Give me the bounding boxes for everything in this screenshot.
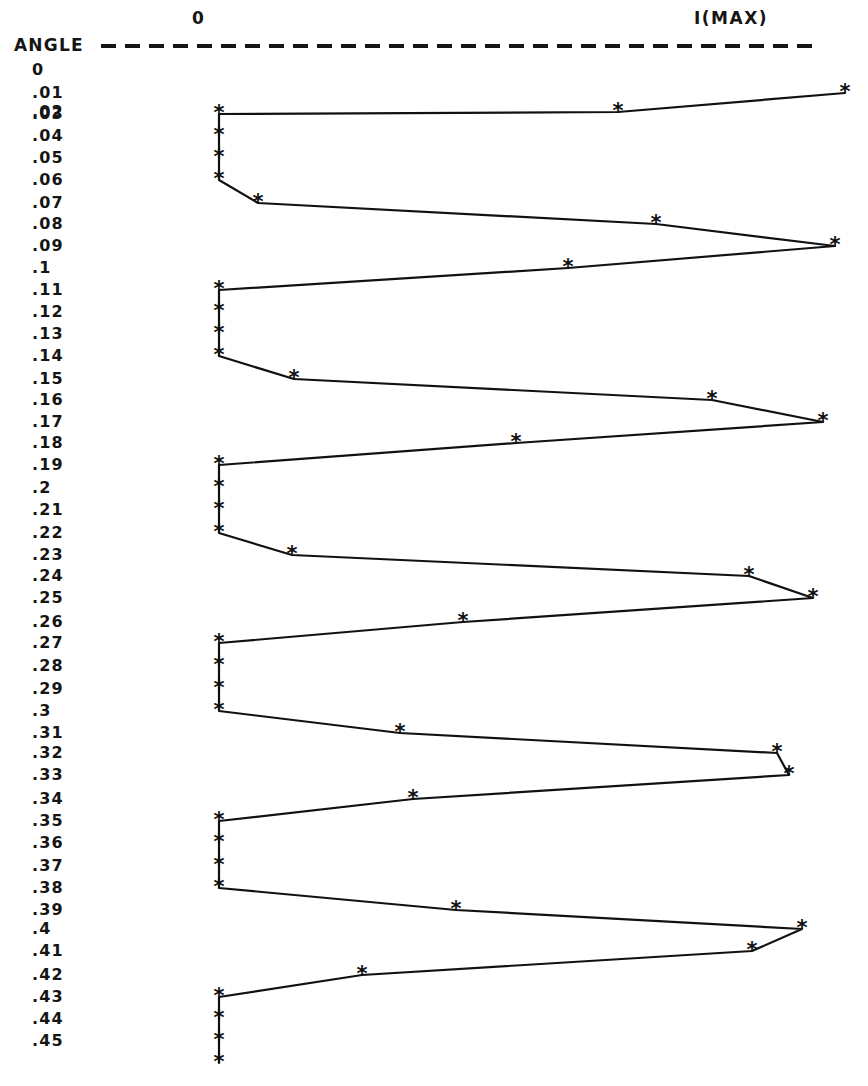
- dash-segment: [605, 44, 620, 48]
- column-header-zero: 0: [192, 8, 205, 28]
- dash-segment: [461, 44, 476, 48]
- dash-segment: [101, 44, 116, 48]
- data-point-marker: *: [747, 940, 758, 961]
- axis-tick-label: .08: [14, 216, 134, 232]
- data-point-marker: *: [214, 1030, 225, 1051]
- data-point-marker: *: [744, 565, 755, 586]
- data-point-marker: *: [830, 235, 841, 256]
- dash-segment: [533, 44, 548, 48]
- axis-tick-label: .42: [14, 967, 134, 983]
- axis-tick-label: .43: [14, 989, 134, 1005]
- data-point-marker: *: [214, 877, 225, 898]
- data-point-marker: *: [214, 1052, 225, 1073]
- dash-segment: [389, 44, 404, 48]
- data-point-marker: *: [408, 788, 419, 809]
- column-header-imax: I(MAX): [694, 8, 768, 28]
- axis-tick-label: .37: [14, 858, 134, 874]
- data-point-marker: *: [613, 101, 624, 122]
- data-point-marker: *: [214, 301, 225, 322]
- data-point-marker: *: [214, 279, 225, 300]
- dashed-rule: [101, 44, 813, 48]
- axis-tick-label: .29: [14, 681, 134, 697]
- axis-tick-label: .16: [14, 392, 134, 408]
- axis-tick-label: .4: [14, 921, 134, 937]
- axis-tick-label: .12: [14, 304, 134, 320]
- dash-segment: [725, 44, 740, 48]
- data-point-marker: *: [395, 722, 406, 743]
- axis-tick-label: 0: [14, 62, 134, 78]
- data-point-marker: *: [214, 522, 225, 543]
- data-point-marker: *: [214, 125, 225, 146]
- data-point-marker: *: [214, 147, 225, 168]
- data-point-marker: *: [287, 544, 298, 565]
- dash-segment: [293, 44, 308, 48]
- axis-tick-label: .25: [14, 590, 134, 606]
- axis-tick-label: .01: [14, 85, 134, 101]
- data-point-marker: *: [214, 169, 225, 190]
- plot-page: 0 I(MAX) ANGLE 0.01.02.03.04.05.06.07.08…: [0, 0, 868, 1086]
- axis-tick-label: .36: [14, 835, 134, 851]
- data-point-marker: *: [451, 899, 462, 920]
- data-point-marker: *: [214, 986, 225, 1007]
- axis-tick-label: .24: [14, 568, 134, 584]
- data-point-marker: *: [289, 368, 300, 389]
- data-point-marker: *: [511, 432, 522, 453]
- dash-segment: [149, 44, 164, 48]
- data-point-marker: *: [214, 454, 225, 475]
- data-point-marker: *: [707, 389, 718, 410]
- axis-tick-label: .23: [14, 547, 134, 563]
- axis-tick-label: .11: [14, 282, 134, 298]
- dash-segment: [749, 44, 764, 48]
- dash-segment: [125, 44, 140, 48]
- dash-segment: [269, 44, 284, 48]
- axis-tick-label: .3: [14, 703, 134, 719]
- dash-segment: [581, 44, 596, 48]
- data-point-marker: *: [214, 499, 225, 520]
- data-point-marker: *: [784, 764, 795, 785]
- axis-tick-label: .19: [14, 457, 134, 473]
- axis-tick-label: .45: [14, 1033, 134, 1049]
- dash-segment: [485, 44, 500, 48]
- data-point-marker: *: [214, 810, 225, 831]
- data-point-marker: *: [818, 411, 829, 432]
- axis-tick-label: .33: [14, 767, 134, 783]
- dash-segment: [197, 44, 212, 48]
- axis-tick-label: .28: [14, 658, 134, 674]
- dash-segment: [773, 44, 788, 48]
- data-point-marker: *: [458, 611, 469, 632]
- data-point-marker: *: [840, 82, 851, 103]
- axis-tick-label: .27: [14, 635, 134, 651]
- dash-segment: [341, 44, 356, 48]
- axis-tick-label: .07: [14, 195, 134, 211]
- dash-segment: [413, 44, 428, 48]
- data-point-marker: *: [214, 832, 225, 853]
- axis-tick-label: .35: [14, 813, 134, 829]
- axis-tick-label: .26: [14, 614, 134, 630]
- dash-segment: [245, 44, 260, 48]
- dash-segment: [653, 44, 668, 48]
- axis-tick-label: .09: [14, 238, 134, 254]
- dash-segment: [365, 44, 380, 48]
- data-point-marker: *: [214, 345, 225, 366]
- axis-tick-label: .13: [14, 326, 134, 342]
- data-point-marker: *: [772, 742, 783, 763]
- axis-tick-label: .34: [14, 791, 134, 807]
- axis-tick-label: .2: [14, 480, 134, 496]
- dash-segment: [557, 44, 572, 48]
- data-point-marker: *: [253, 192, 264, 213]
- data-point-marker: *: [563, 257, 574, 278]
- data-point-marker: *: [214, 700, 225, 721]
- dash-segment: [629, 44, 644, 48]
- data-point-marker: *: [214, 632, 225, 653]
- axis-tick-label: .39: [14, 902, 134, 918]
- axis-tick-label: .14: [14, 348, 134, 364]
- data-point-marker: *: [651, 213, 662, 234]
- data-point-marker: *: [214, 855, 225, 876]
- data-point-marker: *: [214, 323, 225, 344]
- axis-tick-label: .15: [14, 371, 134, 387]
- dash-segment: [701, 44, 716, 48]
- angle-axis-caption: ANGLE: [14, 35, 84, 55]
- axis-tick-label: .05: [14, 150, 134, 166]
- data-point-marker: *: [214, 103, 225, 124]
- dash-segment: [221, 44, 236, 48]
